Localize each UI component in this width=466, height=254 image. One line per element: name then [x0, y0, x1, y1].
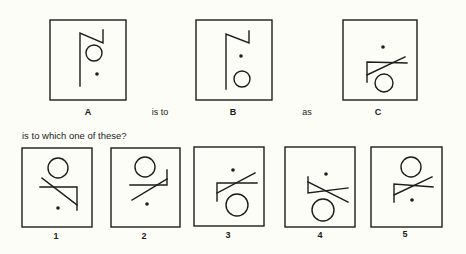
is-to-text: is to	[152, 108, 169, 117]
circle-shape	[375, 74, 393, 92]
figure-b-label: B	[230, 108, 237, 117]
dot-shape	[410, 198, 414, 202]
figure-a	[50, 20, 126, 100]
option-3[interactable]	[194, 147, 264, 226]
dot-shape	[324, 172, 328, 176]
dot-shape	[239, 54, 243, 58]
question-prompt: is to which one of these?	[22, 131, 127, 141]
diagonal-shape	[367, 57, 405, 75]
option-2-frame[interactable]	[111, 148, 180, 227]
option-5[interactable]	[371, 147, 442, 227]
circle-shape	[226, 194, 248, 216]
dot-shape	[381, 45, 385, 49]
option-4[interactable]	[285, 147, 355, 227]
bracket-shape	[217, 183, 257, 201]
figure-c-frame	[343, 20, 417, 100]
option-3-label: 3	[225, 231, 230, 240]
dot-shape	[145, 202, 149, 206]
puzzle-figure	[0, 0, 466, 254]
option-4-label: 4	[317, 231, 322, 240]
as-text: as	[302, 108, 312, 117]
dot-shape	[56, 206, 60, 210]
circle-shape	[234, 71, 250, 87]
figure-b	[196, 20, 272, 100]
figure-a-label: A	[85, 108, 92, 117]
option-4-frame[interactable]	[285, 147, 355, 227]
dot-shape	[231, 168, 235, 172]
figure-b-frame	[196, 20, 272, 100]
circle-shape	[86, 45, 102, 61]
circle-shape	[135, 157, 155, 177]
dot-shape	[95, 72, 99, 76]
diagonal-shape	[132, 179, 167, 200]
option-2-label: 2	[141, 232, 146, 241]
circle-shape	[401, 157, 421, 177]
figure-c	[343, 20, 417, 100]
figure-c-label: C	[375, 108, 382, 117]
hook-shape	[226, 31, 249, 89]
diagonal-shape	[42, 178, 77, 205]
option-1-label: 1	[53, 232, 58, 241]
figure-a-frame	[50, 20, 126, 100]
option-5-label: 5	[402, 230, 407, 239]
option-1[interactable]	[22, 148, 92, 227]
circle-shape	[48, 158, 68, 178]
option-2[interactable]	[111, 148, 180, 227]
circle-shape	[312, 199, 334, 221]
